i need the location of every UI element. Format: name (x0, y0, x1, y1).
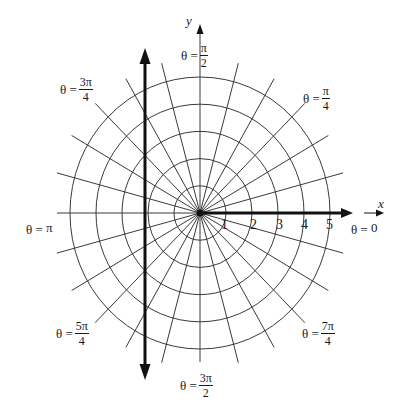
spoke-75deg (200, 63, 238, 213)
angle-label-pi-over-4: θ =π4 (303, 85, 330, 112)
polar-axis-arrow-icon (341, 208, 353, 218)
angle-label-pi: θ = π (26, 221, 53, 236)
spoke-255deg (162, 213, 200, 363)
pole-point (197, 210, 204, 217)
spoke-165deg (57, 173, 200, 213)
radial-tick-4: 4 (301, 218, 308, 232)
angle-label-5pi-over-4: θ =5π4 (56, 320, 89, 347)
spoke-225deg (95, 213, 200, 323)
vertical-arrow-down-icon (140, 364, 151, 380)
radial-tick-3: 3 (276, 218, 283, 232)
spoke-285deg (200, 213, 238, 363)
spoke-135deg (95, 103, 200, 213)
spoke-105deg (162, 63, 200, 213)
spoke-120deg (126, 79, 200, 213)
spoke-15deg (200, 173, 343, 213)
spoke-30deg (200, 135, 328, 213)
spoke-45deg (200, 103, 305, 213)
spoke-195deg (57, 213, 200, 253)
polar-diagram: y x 1 2 3 4 5 θ =π2 θ =3π4 θ =π4 θ = π θ… (0, 0, 405, 418)
angle-label-zero: θ = 0 (351, 221, 378, 236)
angle-label-pi-over-2: θ =π2 (181, 42, 208, 69)
y-axis-label: y (186, 14, 192, 27)
radial-tick-2: 2 (250, 218, 257, 232)
vertical-arrow-up-icon (140, 48, 151, 64)
angle-label-3pi-over-2: θ =3π2 (180, 372, 213, 399)
x-axis-label: x (378, 197, 384, 210)
spoke-330deg (200, 213, 328, 291)
y-axis-arrow-icon (197, 24, 204, 34)
spoke-300deg (200, 213, 274, 347)
spoke-60deg (200, 79, 274, 213)
spoke-150deg (72, 135, 200, 213)
spoke-210deg (72, 213, 200, 291)
radial-tick-5: 5 (326, 218, 333, 232)
angle-label-3pi-over-4: θ =3π4 (60, 76, 93, 103)
spoke-240deg (126, 213, 200, 347)
radial-tick-1: 1 (221, 218, 228, 232)
angle-label-7pi-over-4: θ =7π4 (302, 320, 335, 347)
